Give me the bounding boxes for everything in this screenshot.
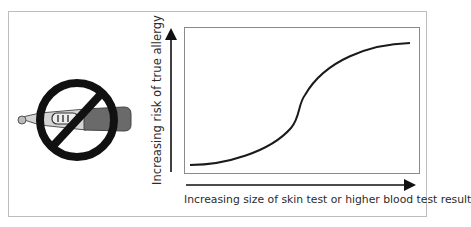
chart-plot-area [184, 27, 420, 174]
x-axis-arrow [186, 179, 416, 191]
y-axis-label: Increasing risk of true allergy [150, 15, 164, 185]
x-axis-label: Increasing size of skin test or higher b… [184, 193, 471, 206]
y-axis-arrow [165, 28, 177, 172]
